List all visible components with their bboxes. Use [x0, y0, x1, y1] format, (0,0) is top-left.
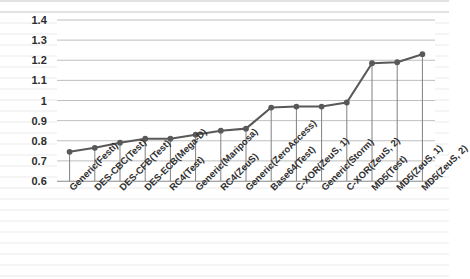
y-axis-tick-label: 1.3	[31, 34, 47, 46]
y-axis-tick-label: 0.8	[31, 135, 47, 147]
y-axis-tick-label: 1.1	[31, 74, 47, 86]
data-point-marker	[218, 128, 224, 134]
data-point-marker	[319, 104, 325, 110]
data-point-marker	[67, 149, 73, 155]
data-point-marker	[268, 105, 274, 111]
x-axis-tick-labels: Generic(Festi)DES-CBC(Test)DES-CFB(Test)…	[57, 183, 435, 279]
y-axis-tick-label: 0.7	[31, 155, 47, 167]
data-point-marker	[344, 100, 350, 106]
y-axis-tick-label: 1.2	[31, 54, 47, 66]
data-point-marker	[92, 145, 98, 151]
y-axis-tick-label: 1	[41, 95, 47, 107]
y-axis-tick-label: 1.4	[31, 14, 47, 26]
y-axis-tick-label: 0.6	[31, 175, 47, 187]
data-point-marker	[294, 104, 300, 110]
data-point-marker	[369, 60, 375, 66]
data-point-marker	[420, 51, 426, 57]
y-axis-tick-label: 0.9	[31, 115, 47, 127]
data-point-marker	[394, 59, 400, 65]
y-axis-tick-labels: 1.41.31.21.110.90.80.70.6	[0, 20, 52, 181]
